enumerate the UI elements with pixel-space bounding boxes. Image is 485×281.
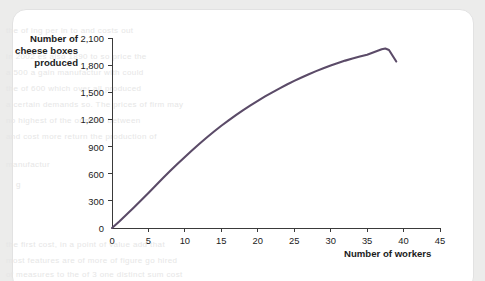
total-product-curve [112, 49, 396, 229]
chart-axes [108, 38, 440, 232]
chart-plot [0, 0, 485, 281]
chart-series [112, 49, 396, 229]
page-root: the of ing per in to and costs out in 20… [0, 0, 485, 281]
